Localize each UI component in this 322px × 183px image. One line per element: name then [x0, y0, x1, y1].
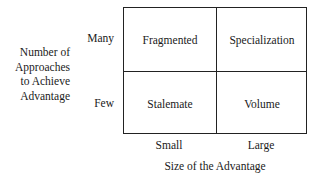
col-label-small: Small — [123, 139, 215, 151]
y-axis-label-line: to Achieve — [2, 74, 70, 89]
y-axis-label-line: Number of — [2, 45, 70, 60]
row-label-few: Few — [84, 97, 114, 109]
cell-volume: Volume — [216, 72, 308, 135]
y-axis-label-line: Advantage — [2, 89, 70, 104]
cell-stalemate: Stalemate — [124, 72, 216, 135]
y-axis-label: Number of Approaches to Achieve Advantag… — [2, 45, 70, 103]
row-label-many: Many — [84, 32, 114, 44]
col-label-large: Large — [215, 139, 307, 151]
cell-fragmented: Fragmented — [124, 8, 216, 71]
y-axis-label-line: Approaches — [2, 60, 70, 75]
x-axis-label: Size of the Advantage — [123, 160, 307, 172]
cell-specialization: Specialization — [216, 8, 308, 71]
matrix-grid: Fragmented Specialization Stalemate Volu… — [123, 7, 307, 134]
